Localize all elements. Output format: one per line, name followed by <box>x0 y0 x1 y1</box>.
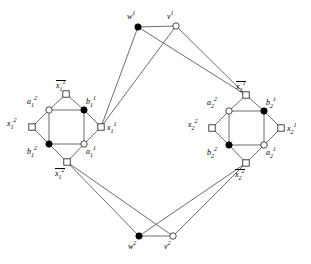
node-label-nx2_1: x21 <box>236 81 246 91</box>
graph-node-x2_2[interactable] <box>209 125 215 131</box>
graph-node-x1_1[interactable] <box>98 124 104 130</box>
node-label-a1_1: a11 <box>86 148 96 156</box>
node-label-x2_2: x22 <box>188 121 198 129</box>
overline-span: x12 <box>55 168 65 178</box>
graph-edge <box>67 162 173 236</box>
node-label-b2_1: b21 <box>266 99 276 107</box>
graph-edge <box>138 27 246 95</box>
graph-edge <box>67 162 139 236</box>
graph-node-b2_1[interactable] <box>261 108 267 114</box>
node-label-nx1_1: x11 <box>56 80 66 90</box>
graph-node-x1_2[interactable] <box>29 124 35 130</box>
node-label-a2_2: a22 <box>207 99 217 107</box>
node-label-a2_1: a21 <box>266 149 276 157</box>
node-label-v1: v1 <box>167 13 174 21</box>
graph-node-x2_1[interactable] <box>278 125 284 131</box>
graph-node-b2_2[interactable] <box>226 142 232 148</box>
graph-edge <box>101 26 176 127</box>
graph-node-a1_2[interactable] <box>46 107 52 113</box>
graph-node-nx1_1[interactable] <box>63 91 69 97</box>
graph-edge <box>139 163 246 236</box>
graph-node-w2[interactable] <box>136 233 142 239</box>
node-label-x2_1: x21 <box>287 125 297 133</box>
node-label-a1_2: a12 <box>27 98 37 106</box>
edges-layer <box>32 26 281 236</box>
graph-edge <box>101 27 138 127</box>
node-label-v2: v2 <box>164 243 171 251</box>
overline-span: x21 <box>236 81 246 91</box>
overline-span: x11 <box>56 80 66 90</box>
graph-canvas <box>0 0 311 264</box>
node-label-b1_1: b11 <box>86 98 96 106</box>
node-label-nx2_2: x22 <box>235 169 245 179</box>
node-label-x1_1: x11 <box>107 124 117 132</box>
graph-node-v2[interactable] <box>170 233 176 239</box>
node-label-x1_2: x12 <box>7 120 17 128</box>
node-label-w1: w1 <box>127 13 135 21</box>
graph-node-w1[interactable] <box>135 24 141 30</box>
graph-node-v1[interactable] <box>173 23 179 29</box>
nodes-layer <box>29 23 284 239</box>
node-label-b1_2: b12 <box>27 148 37 156</box>
node-label-nx1_2: x12 <box>55 168 65 178</box>
graph-node-a2_2[interactable] <box>226 108 232 114</box>
graph-node-nx2_2[interactable] <box>243 160 249 166</box>
node-label-b2_2: b22 <box>207 149 217 157</box>
graph-edge <box>138 26 176 27</box>
node-label-w2: w2 <box>128 243 136 251</box>
graph-node-nx2_1[interactable] <box>243 92 249 98</box>
overline-span: x22 <box>235 169 245 179</box>
graph-node-b1_1[interactable] <box>81 107 87 113</box>
graph-figure: w1v1w2v2x11x12x11x12a12b11b12a11x21x22x2… <box>0 0 311 264</box>
graph-node-nx1_2[interactable] <box>64 159 70 165</box>
graph-node-b1_2[interactable] <box>46 141 52 147</box>
